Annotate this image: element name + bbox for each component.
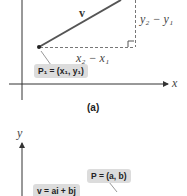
- x-axis-label: x: [172, 76, 177, 91]
- p-leader-line: [109, 182, 117, 192]
- right-angle-marker: [128, 41, 134, 47]
- dy-label: y₂ − y₁: [140, 12, 173, 27]
- point-p1: [37, 45, 41, 49]
- v-label-box: v = ai + bj: [33, 184, 80, 196]
- p-label-box: P = (a, b): [87, 169, 131, 183]
- diagram-canvas: [0, 0, 187, 196]
- p1-leader-line: [41, 51, 51, 65]
- y-axis-label: y: [17, 126, 22, 141]
- panel-a-caption: (a): [87, 102, 99, 113]
- p1-label-box: P₁ = (x₁, y₁): [34, 64, 88, 78]
- vector-v-label: v: [79, 6, 85, 21]
